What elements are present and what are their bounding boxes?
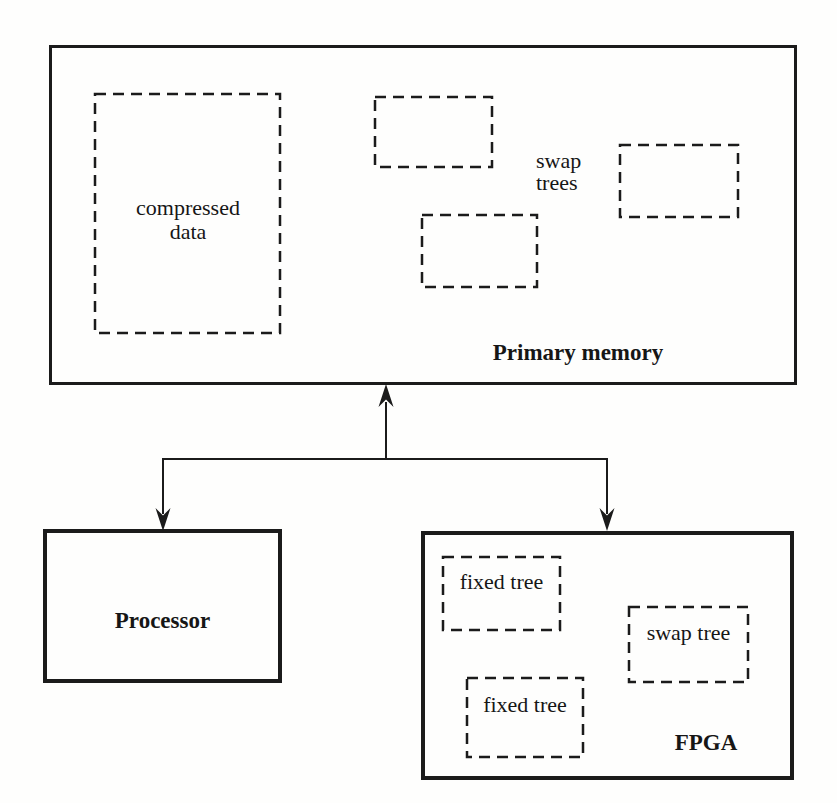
swap-tree-fpga-label: swap tree: [629, 621, 748, 645]
swap-tree-memory-box-3: [422, 215, 537, 287]
swap-tree-memory-box-2: [620, 145, 738, 217]
swap-trees-label: swap trees: [536, 150, 600, 194]
diagram-shapes: [0, 0, 837, 803]
memory-bus-connector: [156, 384, 615, 531]
fixed-tree-top-label: fixed tree: [443, 570, 560, 594]
processor-box: [45, 531, 280, 681]
primary-memory-title: Primary memory: [478, 340, 678, 366]
memory-architecture-diagram: compressed data swap trees Primary memor…: [0, 0, 837, 803]
swap-tree-memory-box-1: [375, 97, 492, 167]
fixed-tree-box-2: [467, 678, 583, 757]
processor-title: Processor: [45, 608, 280, 634]
fixed-tree-bottom-label: fixed tree: [467, 693, 583, 717]
fpga-title: FPGA: [648, 730, 764, 756]
compressed-data-label: compressed data: [125, 196, 251, 244]
